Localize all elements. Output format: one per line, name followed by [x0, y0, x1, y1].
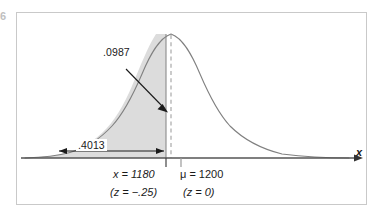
left-area-label: .4013 [76, 139, 107, 151]
x-value-label: x = 1180 [113, 168, 155, 180]
x-axis-label: x [356, 146, 362, 158]
figure-number-fragment: 6 [0, 8, 7, 24]
mu-value-label: μ = 1200 [180, 168, 223, 180]
z-at-x-label: (z = −.25) [110, 186, 157, 198]
shaded-area-label: .0987 [103, 46, 130, 58]
z-at-mu-label: (z = 0) [183, 186, 214, 198]
figure-root: 6 .0987 .4013 x x = 1180 μ = 1 [0, 0, 380, 219]
normal-curve [25, 34, 349, 158]
